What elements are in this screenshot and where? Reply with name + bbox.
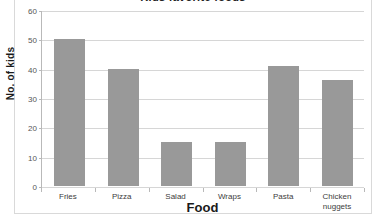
y-axis-tick-label: 40	[28, 65, 37, 74]
bar-slot	[150, 11, 204, 186]
x-axis-title: Food	[40, 200, 365, 215]
y-axis-tick-mark	[39, 158, 42, 159]
bar[interactable]	[268, 66, 299, 186]
y-axis-title: No. of kids	[5, 35, 16, 113]
bars-group	[43, 11, 364, 186]
bar[interactable]	[108, 69, 139, 186]
plot-area: 0102030405060	[41, 11, 364, 188]
y-axis-tick-mark	[39, 70, 42, 71]
bar-slot	[257, 11, 311, 186]
y-axis-tick-label: 50	[28, 36, 37, 45]
chart-title: Kids favorite foods	[14, 0, 372, 3]
y-axis-tick-label: 30	[28, 95, 37, 104]
y-axis-tick-mark	[39, 11, 42, 12]
x-axis-tick-mark	[364, 188, 365, 192]
bar-slot	[97, 11, 151, 186]
bar[interactable]	[161, 142, 192, 186]
y-axis-tick-mark	[39, 40, 42, 41]
y-axis-tick-label: 20	[28, 124, 37, 133]
chart-screenshot: Kids favorite foods No. of kids 01020304…	[0, 0, 376, 219]
y-axis-tick-label: 0	[33, 183, 37, 192]
y-axis-tick-label: 60	[28, 7, 37, 16]
bar-slot	[204, 11, 258, 186]
bar-slot	[311, 11, 365, 186]
y-axis-tick-mark	[39, 99, 42, 100]
bar[interactable]	[54, 39, 85, 186]
bar-slot	[43, 11, 97, 186]
bar[interactable]	[322, 80, 353, 186]
bar[interactable]	[215, 142, 246, 186]
y-axis-tick-label: 10	[28, 153, 37, 162]
y-axis-tick-mark	[39, 128, 42, 129]
